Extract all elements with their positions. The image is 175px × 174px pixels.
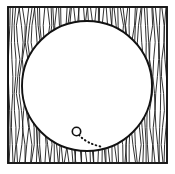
inscribed-circle xyxy=(22,21,152,151)
figure-root xyxy=(0,0,175,174)
point-marker-circle xyxy=(72,127,80,135)
geometry-diagram xyxy=(0,0,175,174)
